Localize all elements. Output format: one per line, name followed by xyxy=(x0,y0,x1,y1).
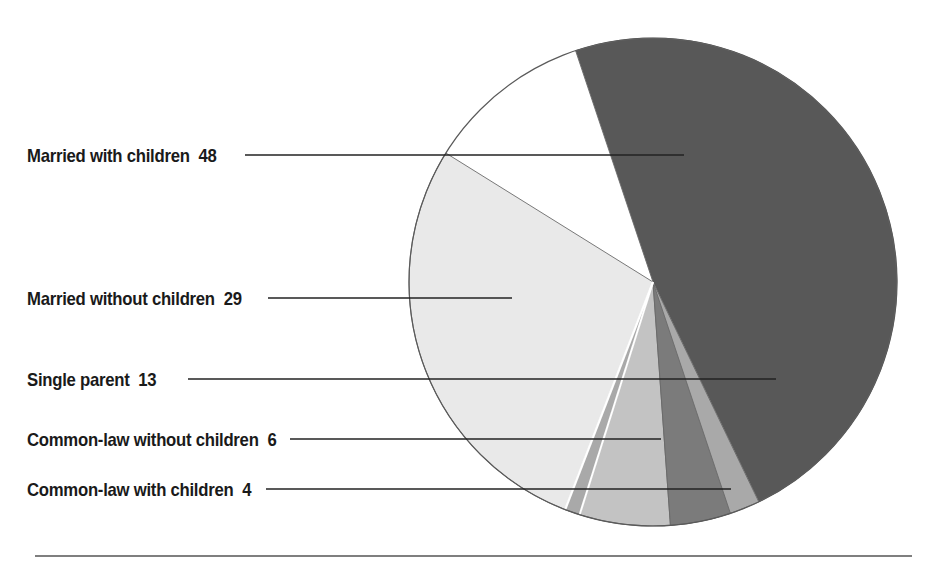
label-common-law-without-children-text: Common-law without children xyxy=(27,429,259,450)
label-single-parent-text: Single parent xyxy=(27,369,129,390)
pie-chart-figure: Married with children48 Married without … xyxy=(0,0,927,574)
label-common-law-with-children-text: Common-law with children xyxy=(27,479,233,500)
label-common-law-without-children: Common-law without children6 xyxy=(27,430,276,449)
label-common-law-with-children: Common-law with children4 xyxy=(27,480,251,499)
label-married-with-children-text: Married with children xyxy=(27,145,190,166)
label-married-without-children: Married without children29 xyxy=(27,289,242,308)
label-married-without-children-text: Married without children xyxy=(27,288,215,309)
pie-wedge-group xyxy=(409,38,897,526)
label-single-parent: Single parent13 xyxy=(27,370,156,389)
label-married-without-children-value: 29 xyxy=(224,288,242,309)
label-common-law-without-children-value: 6 xyxy=(267,429,276,450)
label-married-with-children-value: 48 xyxy=(198,145,216,166)
label-common-law-with-children-value: 4 xyxy=(242,479,251,500)
label-married-with-children: Married with children48 xyxy=(27,146,217,165)
label-single-parent-value: 13 xyxy=(138,369,156,390)
